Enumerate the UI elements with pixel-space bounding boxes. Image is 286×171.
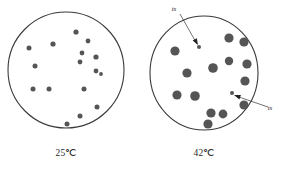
colony-25c (47, 87, 52, 92)
dish-outline-42c (150, 16, 258, 130)
colony-42c (172, 90, 181, 99)
colony-42c (206, 108, 215, 117)
colony-25c (80, 51, 85, 56)
dish-outline-25c (8, 12, 124, 128)
colony-25c (33, 64, 38, 69)
colony-42c (190, 91, 200, 101)
colony-42c (208, 63, 218, 73)
colony-42c (219, 110, 228, 119)
dish-group-25c: 25℃ (8, 12, 124, 158)
colony-25c (93, 54, 98, 59)
colony-25c (99, 72, 103, 76)
colony-42c (225, 57, 233, 65)
colony-25c (31, 87, 36, 92)
colony-42c (239, 100, 248, 109)
figure-canvas: 25℃ 42℃ tsts (0, 0, 286, 171)
colony-42c (182, 68, 191, 77)
colony-42c (203, 119, 212, 128)
ts-label: ts (172, 5, 177, 13)
colony-25c (86, 39, 91, 44)
colony-42c (242, 59, 251, 68)
colony-42c (239, 37, 248, 46)
colony-25c (65, 122, 70, 127)
ts-colony-lower (230, 91, 234, 95)
colony-42c (224, 33, 233, 42)
temperature-label-42c: 42℃ (193, 148, 214, 158)
ts-colony-upper (197, 45, 201, 49)
colony-25c (27, 46, 32, 51)
colony-42c (240, 76, 249, 85)
dish-group-42c: 42℃ (150, 16, 258, 158)
colony-25c (78, 114, 83, 119)
colony-25c (50, 41, 55, 46)
colony-25c (78, 60, 83, 65)
colony-25c (73, 29, 78, 34)
colony-25c (82, 87, 87, 92)
petri-dish-figure: 25℃ 42℃ tsts (0, 0, 286, 171)
colony-25c (94, 69, 99, 74)
colony-25c (95, 105, 100, 110)
temperature-label-25c: 25℃ (55, 148, 76, 158)
ts-label: ts (268, 104, 273, 112)
colony-42c (170, 46, 179, 55)
